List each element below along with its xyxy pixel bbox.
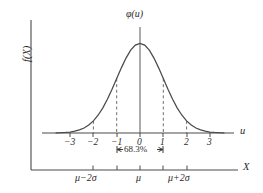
x-axis-ticks [93,166,187,171]
u-tick-plus1: 1 [160,138,165,148]
x-tick-mu-plus-2sigma: μ+2σ [168,173,190,183]
u-tick-minus3: −3 [64,138,75,148]
u-tick-plus2: 2 [184,138,189,148]
confidence-percent-label: 68.3% [124,145,147,154]
x-tick-mu-minus-2sigma: μ−2σ [75,173,97,183]
x-tick-mu: μ [136,173,141,183]
y-axis-label: f(X) [21,46,32,62]
u-axis-label: u [240,126,245,137]
u-tick-plus3: 3 [207,138,212,148]
u-tick-minus1: −1 [111,138,122,148]
u-tick-minus2: −2 [87,138,98,148]
curve-label: φ(u) [126,9,143,19]
x-axis-label: X [243,162,249,173]
normal-distribution-figure [0,0,263,193]
